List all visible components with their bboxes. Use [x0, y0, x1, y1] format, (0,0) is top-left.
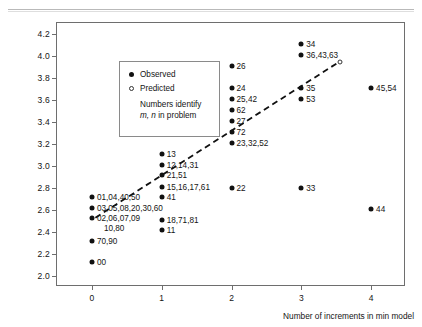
data-point: [159, 194, 164, 199]
data-point-label: 18,71,81: [167, 215, 199, 224]
y-tick-label: 3.0: [38, 161, 50, 171]
legend-box: Observed Predicted Numbers identify m, n…: [119, 61, 220, 137]
data-point-label: 35: [306, 83, 315, 92]
data-point: [159, 172, 164, 177]
legend-note-line1: Numbers identify: [140, 100, 219, 111]
data-point: [229, 186, 234, 191]
data-point-label: 62: [237, 105, 246, 114]
y-tick-label: 2.6: [38, 205, 50, 215]
data-point-label: 11: [167, 225, 176, 234]
data-point: [159, 227, 164, 232]
filled-circle-icon: [129, 72, 134, 77]
data-point-label: 25,42: [237, 94, 258, 103]
data-point: [159, 151, 164, 156]
y-tick-label: 2.2: [38, 249, 50, 259]
data-point: [299, 186, 304, 191]
data-point-label: 33: [306, 184, 315, 193]
data-point-label: 21,51: [167, 170, 188, 179]
data-point: [229, 85, 234, 90]
data-point-label: 03,05,08,20,30,60: [97, 203, 163, 212]
x-tick-label: 4: [369, 293, 374, 303]
data-point-label: 41: [167, 192, 176, 201]
y-tick-label: 2.0: [38, 271, 50, 281]
data-point: [89, 194, 94, 199]
legend-note-line2: m, n in problem: [140, 111, 219, 122]
data-point-label: 12,14,31: [167, 160, 199, 169]
data-point: [159, 184, 164, 189]
data-point-label: 53: [306, 94, 315, 103]
plot-area: 4.24.03.83.63.43.23.02.82.62.42.22.0 012…: [56, 22, 405, 286]
legend-label-predicted: Predicted: [140, 84, 175, 93]
data-point-label: 01,04,40,50: [97, 192, 140, 201]
data-point-label: 22: [237, 184, 246, 193]
data-point-label: 70,90: [97, 236, 118, 245]
legend-note-rest: in problem: [156, 111, 197, 120]
data-point-label: 34: [306, 39, 315, 48]
top-rule-secondary: [8, 11, 414, 12]
data-point: [89, 215, 94, 220]
data-point: [229, 129, 234, 134]
data-point-label: 23,32,52: [237, 138, 269, 147]
data-point: [369, 85, 374, 90]
y-tick-label: 3.4: [38, 117, 50, 127]
x-tick-label: 3: [299, 293, 304, 303]
data-point: [299, 52, 304, 57]
data-point: [229, 140, 234, 145]
data-point: [89, 238, 94, 243]
data-point-label: 27: [237, 116, 246, 125]
legend-label-observed: Observed: [140, 70, 176, 79]
data-point-label: 13: [167, 149, 176, 158]
data-point-label: 44: [376, 204, 385, 213]
data-point: [229, 96, 234, 101]
figure-scatter-plot: Mean success latency in seconds 4.24.03.…: [0, 0, 422, 327]
data-point: [229, 118, 234, 123]
open-circle-icon: [129, 86, 134, 91]
y-tick-label: 2.8: [38, 183, 50, 193]
data-point: [229, 63, 234, 68]
legend-note-italic: m, n: [140, 111, 156, 120]
data-point-label-continued: 10,80: [104, 223, 125, 232]
y-tick-label: 4.0: [38, 51, 50, 61]
y-tick-label: 3.2: [38, 139, 50, 149]
data-point-label: 26: [237, 61, 246, 70]
legend-note: Numbers identify m, n in problem: [140, 100, 219, 121]
data-point: [369, 206, 374, 211]
data-point-label: 00: [97, 257, 106, 266]
data-point-label: 45,54: [376, 83, 397, 92]
x-tick-label: 1: [159, 293, 164, 303]
x-axis-title: Number of increments in min model: [283, 311, 414, 321]
data-point: [229, 107, 234, 112]
legend-entry-observed: Observed: [129, 70, 219, 79]
x-tick-label: 0: [90, 293, 95, 303]
x-tick-label: 2: [229, 293, 234, 303]
data-point-label: 72: [237, 127, 246, 136]
y-tick-label: 3.6: [38, 95, 50, 105]
predicted-endpoint-marker: [337, 59, 342, 64]
data-point: [159, 217, 164, 222]
data-point-label: 36,43,63: [306, 50, 338, 59]
top-rule: [8, 9, 414, 10]
data-point: [299, 85, 304, 90]
data-point: [89, 259, 94, 264]
data-point: [299, 41, 304, 46]
legend-entry-predicted: Predicted: [129, 84, 219, 93]
data-point-label: 24: [237, 83, 246, 92]
y-tick-label: 4.2: [38, 29, 50, 39]
data-point: [159, 162, 164, 167]
data-point-label: 02,06,07,09: [97, 213, 140, 222]
data-point: [89, 205, 94, 210]
data-point-label: 15,16,17,61: [167, 182, 210, 191]
y-tick-label: 2.4: [38, 227, 50, 237]
data-point: [299, 96, 304, 101]
y-tick-label: 3.8: [38, 73, 50, 83]
